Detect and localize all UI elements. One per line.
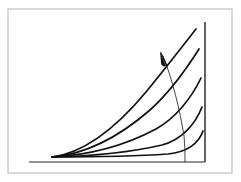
figure-container: Family of exponential-type curves diverg…	[0, 0, 241, 182]
line-drawing-figure: Family of exponential-type curves diverg…	[0, 0, 241, 182]
